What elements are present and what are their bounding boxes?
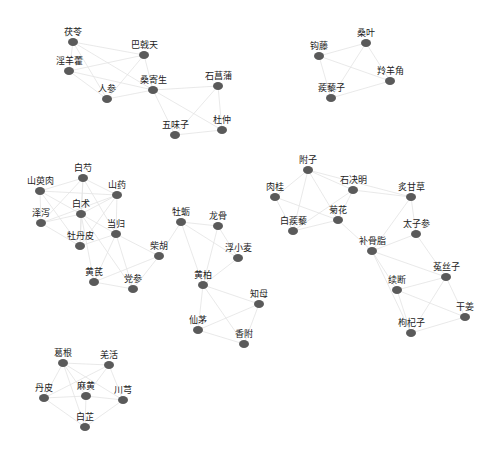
node-renshen[interactable]: 人参 [98,83,116,103]
node-dot[interactable] [176,218,186,226]
node-dot[interactable] [406,193,416,201]
node-label: 牡蛎 [172,206,190,217]
node-label: 浮小麦 [225,242,252,253]
node-bajitian[interactable]: 巴戟天 [131,39,158,59]
node-label: 白术 [72,198,90,209]
node-dot[interactable] [361,39,371,47]
node-label: 茯苓 [64,26,82,37]
node-label: 蒺藜子 [318,82,345,93]
node-dot[interactable] [104,361,114,369]
node-dot[interactable] [75,242,85,250]
node-xianmao[interactable]: 仙茅 [189,314,207,334]
node-dot[interactable] [326,94,336,102]
node-danggui[interactable]: 当归 [107,218,125,238]
node-dot[interactable] [36,219,46,227]
node-label: 仙茅 [189,314,207,325]
node-sangye[interactable]: 桑叶 [357,28,375,47]
node-dot[interactable] [239,340,249,348]
node-dot[interactable] [217,126,227,134]
node-gouteng[interactable]: 钩藤 [310,40,328,60]
node-dot[interactable] [58,359,68,367]
node-label: 香附 [235,328,253,339]
node-zhigancao[interactable]: 炙甘草 [398,181,425,201]
node-dot[interactable] [314,52,324,60]
node-label: 白蒺藜 [280,215,307,226]
node-dot[interactable] [81,392,91,400]
node-yinyanghuo[interactable]: 淫羊藿 [56,55,83,75]
node-buguzhi[interactable]: 补骨脂 [359,235,386,255]
node-dot[interactable] [128,285,138,293]
node-juhua[interactable]: 菊花 [329,204,347,224]
node-dot[interactable] [270,193,280,201]
node-dot[interactable] [80,423,90,431]
node-rougui[interactable]: 肉桂 [266,181,284,201]
node-dot[interactable] [39,394,49,402]
node-dot[interactable] [112,191,122,199]
node-dot[interactable] [170,131,180,139]
node-zhimu[interactable]: 知母 [250,288,268,308]
node-baishao[interactable]: 白芍 [74,162,92,182]
node-dot[interactable] [254,300,264,308]
node-dot[interactable] [35,187,45,195]
node-dot[interactable] [68,38,78,46]
edge-gegen-mahuang [63,363,86,396]
node-dot[interactable] [460,313,470,321]
node-dot[interactable] [348,186,358,194]
node-dot[interactable] [148,86,158,94]
node-dot[interactable] [78,174,88,182]
node-dot[interactable] [233,254,243,262]
node-dot[interactable] [139,51,149,59]
node-shichangpu[interactable]: 石菖蒲 [205,70,232,90]
node-jilizi[interactable]: 蒺藜子 [318,82,345,102]
node-dot[interactable] [406,329,416,337]
node-dot[interactable] [89,278,99,286]
node-taizishen[interactable]: 太子参 [403,218,430,238]
node-dot[interactable] [441,273,451,281]
node-tusizi[interactable]: 菟丝子 [433,261,460,281]
node-xiangfu[interactable]: 香附 [235,328,253,348]
node-dot[interactable] [193,326,203,334]
node-dot[interactable] [213,222,223,230]
node-ganjiang[interactable]: 干姜 [456,301,474,321]
node-huangbai[interactable]: 黄柏 [194,269,212,289]
node-dot[interactable] [303,166,313,174]
node-fuxiaomai[interactable]: 浮小麦 [225,242,252,262]
node-dangshen[interactable]: 党参 [124,273,142,293]
node-dot[interactable] [76,210,86,218]
edge-shanyurou-shanyao [40,191,117,195]
node-dot[interactable] [411,230,421,238]
node-shanyao[interactable]: 山药 [108,180,126,199]
node-wuweizi[interactable]: 五味子 [162,119,189,139]
node-gouqizi[interactable]: 枸杞子 [398,317,425,337]
node-baizhu[interactable]: 白术 [72,198,90,218]
node-danpi[interactable]: 丹皮 [35,382,53,402]
node-dot[interactable] [333,216,343,224]
node-dot[interactable] [154,252,164,260]
node-dot[interactable] [385,77,395,85]
node-dot[interactable] [392,286,402,294]
node-label: 巴戟天 [131,39,158,50]
node-lingyangjiao[interactable]: 羚羊角 [377,65,404,85]
node-dot[interactable] [198,281,208,289]
node-gegen[interactable]: 葛根 [54,347,72,367]
node-dot[interactable] [213,82,223,90]
node-mudanpi[interactable]: 牡丹皮 [67,230,94,250]
node-label: 葛根 [54,347,72,358]
node-dot[interactable] [102,95,112,103]
node-fuzi[interactable]: 附子 [299,154,317,174]
node-qianghuo[interactable]: 羌活 [100,349,118,369]
node-baizhi[interactable]: 白芷 [76,411,94,431]
node-longgu[interactable]: 龙骨 [209,210,227,230]
node-dot[interactable] [118,396,128,404]
node-chaihu[interactable]: 柴胡 [150,240,168,260]
node-sangjisheng[interactable]: 桑寄生 [140,74,167,94]
node-dot[interactable] [367,247,377,255]
node-baijili[interactable]: 白蒺藜 [280,215,307,235]
node-zexie[interactable]: 泽泻 [32,208,50,227]
node-shanyurou[interactable]: 山萸肉 [27,175,54,195]
node-dot[interactable] [288,227,298,235]
node-dot[interactable] [64,67,74,75]
node-chuanxiong[interactable]: 川芎 [114,384,132,404]
node-label: 石决明 [340,174,367,185]
node-dot[interactable] [111,230,121,238]
